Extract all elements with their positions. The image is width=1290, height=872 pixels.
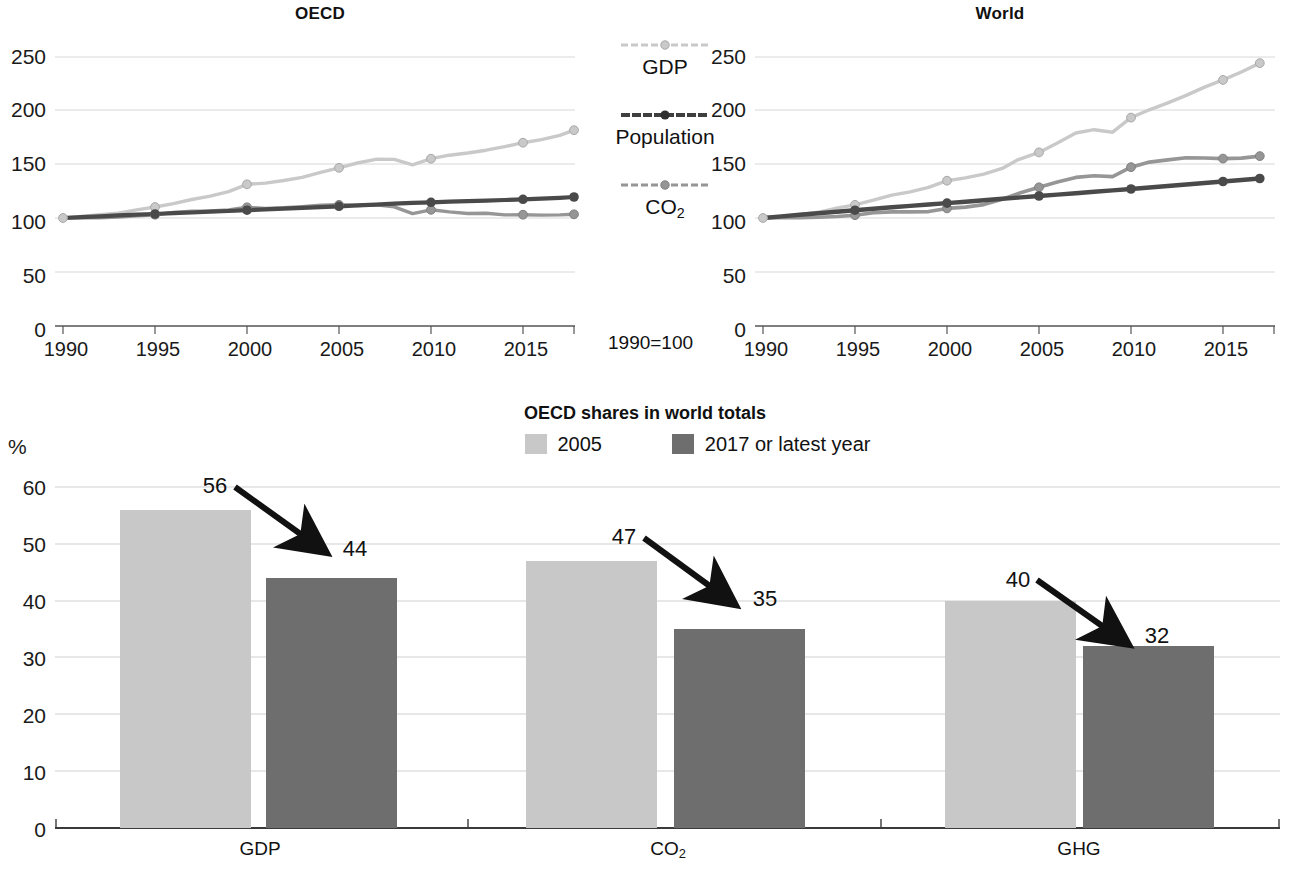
- bar-chart-y-unit: %: [8, 435, 27, 459]
- oecd-chart-title: OECD: [60, 4, 580, 24]
- oecd-line-chart-panel: OECD 250 200 150 100 50 0: [0, 0, 620, 385]
- world-xtick-1990: 1990: [744, 338, 789, 361]
- oecd-x-ticks: [63, 326, 574, 334]
- oecd-xtick-2000: 2000: [228, 338, 273, 361]
- bar-ytick-0: 0: [0, 818, 46, 842]
- bar-ytick-20: 20: [0, 704, 46, 728]
- bar-co2-2005[interactable]: [526, 561, 657, 828]
- world-markers-co2: [851, 152, 1265, 220]
- world-xtick-1995: 1995: [836, 338, 881, 361]
- world-xtick-2010: 2010: [1112, 338, 1157, 361]
- bar-co2-2017[interactable]: [674, 629, 805, 828]
- bar-value-gdp-2017: 44: [343, 536, 367, 562]
- bar-value-co2-2017: 35: [753, 586, 777, 612]
- bar-value-gdp-2005: 56: [203, 473, 227, 499]
- bar-plot-area: [55, 395, 1290, 855]
- world-xtick-2000: 2000: [928, 338, 973, 361]
- bar-ytick-10: 10: [0, 761, 46, 785]
- bar-gdp-2005[interactable]: [120, 510, 251, 828]
- index-base-note: 1990=100: [608, 332, 693, 354]
- world-xtick-2005: 2005: [1020, 338, 1065, 361]
- oecd-ytick-250: 250: [0, 45, 46, 69]
- bar-category-label-gdp: GDP: [239, 838, 280, 860]
- world-ytick-250: 250: [700, 45, 746, 69]
- world-chart-title: World: [740, 4, 1260, 24]
- world-line-chart-panel: World 250 200 150 100 50 0: [700, 0, 1290, 385]
- legend-line-marker-population-icon: [619, 108, 711, 122]
- oecd-ytick-100: 100: [0, 210, 46, 234]
- oecd-xtick-1990: 1990: [44, 338, 89, 361]
- bar-category-label-ghg: GHG: [1057, 838, 1100, 860]
- world-xtick-2015: 2015: [1204, 338, 1249, 361]
- bar-ytick-30: 30: [0, 647, 46, 671]
- oecd-xtick-2005: 2005: [320, 338, 365, 361]
- oecd-xtick-2010: 2010: [412, 338, 457, 361]
- bar-value-ghg-2017: 32: [1145, 623, 1169, 649]
- oecd-xtick-1995: 1995: [136, 338, 181, 361]
- oecd-xtick-2015: 2015: [504, 338, 549, 361]
- bar-value-co2-2005: 47: [612, 524, 636, 550]
- bar-ytick-60: 60: [0, 476, 46, 500]
- world-x-ticks: [763, 326, 1274, 334]
- bar-category-label-co2: CO2: [650, 838, 686, 861]
- oecd-gridlines: [55, 57, 575, 272]
- oecd-ytick-50: 50: [0, 264, 46, 288]
- oecd-ytick-0: 0: [0, 318, 46, 342]
- world-plot-area: [755, 22, 1290, 362]
- bar-ytick-40: 40: [0, 590, 46, 614]
- world-series-population: [763, 179, 1260, 219]
- bar-ghg-2017[interactable]: [1083, 646, 1214, 828]
- bar-gdp-2017[interactable]: [266, 578, 397, 828]
- oecd-ytick-150: 150: [0, 152, 46, 176]
- bar-ytick-50: 50: [0, 533, 46, 557]
- oecd-ytick-200: 200: [0, 98, 46, 122]
- world-ytick-100: 100: [700, 210, 746, 234]
- legend-line-marker-co2-icon: [619, 178, 711, 192]
- world-ytick-200: 200: [700, 98, 746, 122]
- world-ytick-150: 150: [700, 152, 746, 176]
- oecd-shares-bar-chart-panel: OECD shares in world totals 2005 2017 or…: [0, 395, 1290, 872]
- bar-value-ghg-2005: 40: [1006, 567, 1030, 593]
- bar-ghg-2005[interactable]: [945, 601, 1076, 828]
- world-ytick-0: 0: [700, 318, 746, 342]
- oecd-plot-area: [55, 22, 615, 362]
- world-ytick-50: 50: [700, 264, 746, 288]
- legend-line-marker-gdp-icon: [619, 38, 711, 52]
